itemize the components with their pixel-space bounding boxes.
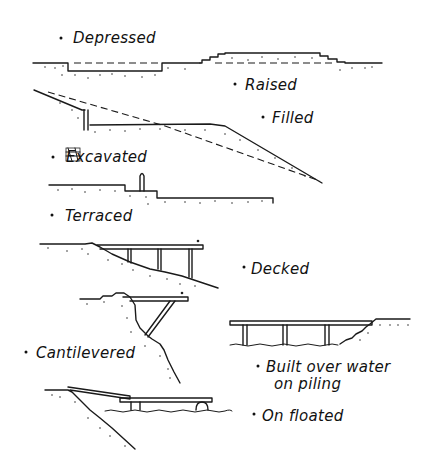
piling-label: Built over water on piling bbox=[257, 358, 392, 393]
decked-label: Decked bbox=[243, 260, 310, 278]
filled-text: Filled bbox=[272, 109, 314, 127]
piling-sketch bbox=[230, 319, 410, 346]
decked-text: Decked bbox=[251, 260, 309, 278]
excavated-text: Excavated bbox=[66, 148, 147, 166]
floated-label: On floated bbox=[253, 407, 344, 425]
cantilevered-text: Cantilevered bbox=[36, 344, 135, 362]
raised-text: Raised bbox=[245, 76, 297, 94]
filled-label: Filled bbox=[262, 109, 314, 127]
raised-sketch bbox=[200, 53, 382, 71]
piling-text-line1: Built over water bbox=[266, 358, 391, 376]
site-section-sketches: Depressed Raised Filled Excavated bbox=[0, 0, 433, 464]
decked-sketch bbox=[40, 240, 218, 288]
depressed-text: Depressed bbox=[73, 29, 156, 47]
piling-text-line2: on piling bbox=[274, 375, 341, 393]
floated-sketch bbox=[45, 387, 232, 449]
floated-text: On floated bbox=[262, 407, 344, 425]
excavated-label: Excavated bbox=[52, 148, 148, 166]
depressed-sketch bbox=[33, 63, 200, 79]
depressed-label: Depressed bbox=[60, 29, 156, 47]
cantilevered-label: Cantilevered bbox=[25, 344, 136, 362]
terraced-text: Terraced bbox=[65, 207, 133, 225]
person-figure-icon bbox=[140, 174, 144, 192]
cantilevered-sketch bbox=[80, 292, 188, 383]
filled-excavated-sketch bbox=[34, 90, 322, 183]
raised-label: Raised bbox=[234, 76, 298, 94]
terraced-sketch bbox=[49, 174, 273, 205]
terraced-label: Terraced bbox=[51, 207, 133, 225]
